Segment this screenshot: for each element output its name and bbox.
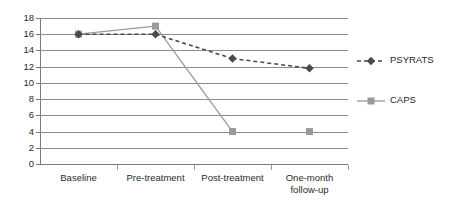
data-point-marker <box>228 54 236 62</box>
y-tick-mark-16 <box>36 34 40 35</box>
y-tick-mark-14 <box>36 50 40 51</box>
series-psyrats <box>74 30 313 72</box>
data-point-marker <box>305 64 313 72</box>
legend-item-caps[interactable]: CAPS <box>356 92 452 106</box>
segment <box>233 59 310 69</box>
y-tick-mark-18 <box>36 18 40 19</box>
x-axis-label-2: Post-treatment <box>194 172 271 184</box>
x-axis-label-1: Pre-treatment <box>117 172 194 184</box>
y-tick-label-2: 2 <box>4 143 34 153</box>
x-tick-mark-end <box>348 165 349 170</box>
data-point-marker <box>152 23 159 30</box>
y-tick-label-6: 6 <box>4 111 34 121</box>
y-tick-mark-12 <box>36 67 40 68</box>
legend-label: PSYRATS <box>390 54 434 65</box>
chart-legend: PSYRATSCAPS <box>356 52 452 132</box>
y-tick-mark-8 <box>36 99 40 100</box>
y-tick-label-10: 10 <box>4 78 34 88</box>
line-chart: 024681012141618 BaselinePre-treatmentPos… <box>0 0 452 208</box>
plot-area <box>40 18 348 164</box>
y-axis-tick-labels: 024681012141618 <box>0 18 34 164</box>
segment <box>79 26 156 34</box>
y-tick-mark-4 <box>36 132 40 133</box>
y-tick-label-14: 14 <box>4 46 34 56</box>
segment <box>156 34 233 58</box>
data-point-marker <box>229 128 236 135</box>
y-tick-label-12: 12 <box>4 62 34 72</box>
segment <box>156 26 233 131</box>
y-tick-mark-0 <box>36 164 40 165</box>
y-tick-label-16: 16 <box>4 29 34 39</box>
x-axis-label-3: One-month follow-up <box>271 172 348 196</box>
data-point-marker <box>151 30 159 38</box>
x-tick-mark-3 <box>271 165 272 170</box>
data-point-marker <box>306 128 313 135</box>
x-axis-label-0: Baseline <box>40 172 117 184</box>
y-tick-mark-10 <box>36 83 40 84</box>
series-caps <box>75 23 313 135</box>
series-layer <box>40 18 348 164</box>
x-axis-tick-labels: BaselinePre-treatmentPost-treatmentOne-m… <box>40 172 348 206</box>
legend-swatch-diamond-icon <box>356 53 386 65</box>
y-tick-label-0: 0 <box>4 159 34 169</box>
legend-label: CAPS <box>390 94 416 105</box>
x-tick-mark-1 <box>117 165 118 170</box>
legend-swatch-square-icon <box>356 93 386 105</box>
y-tick-mark-2 <box>36 148 40 149</box>
legend-item-psyrats[interactable]: PSYRATS <box>356 52 452 66</box>
y-tick-label-8: 8 <box>4 94 34 104</box>
x-tick-mark-2 <box>194 165 195 170</box>
y-tick-label-18: 18 <box>4 13 34 23</box>
y-tick-label-4: 4 <box>4 127 34 137</box>
y-tick-mark-6 <box>36 115 40 116</box>
